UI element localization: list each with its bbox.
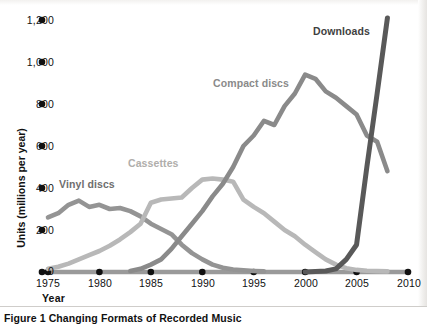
xtick-label-1995: 1995 [232, 277, 276, 289]
figure-caption: Figure 1 Changing Formats of Recorded Mu… [4, 312, 242, 324]
series-label-compact-discs: Compact discs [213, 77, 289, 89]
x-tick-dot-1980 [96, 269, 103, 276]
caption-divider [0, 306, 427, 307]
xtick-label-1990: 1990 [181, 277, 225, 289]
y-axis-title: Units (millions per year) [15, 123, 27, 253]
ytick-label-1200: 1,200 [0, 14, 54, 26]
xtick-label-1975: 1975 [26, 277, 70, 289]
xtick-label-1980: 1980 [78, 277, 122, 289]
ytick-label-600: 600 [0, 140, 54, 152]
x-tick-dot-1990 [199, 269, 206, 276]
series-line-downloads [305, 18, 387, 272]
series-line-compact-discs [130, 75, 387, 271]
ytick-label-1000: 1,000 [0, 56, 54, 68]
series-label-cassettes: Cassettes [128, 157, 179, 169]
x-tick-dot-2010 [405, 269, 412, 276]
xtick-label-2010: 2010 [387, 277, 427, 289]
xtick-label-1985: 1985 [129, 277, 173, 289]
xtick-label-2000: 2000 [284, 277, 328, 289]
series-label-vinyl-discs: Vinyl discs [59, 178, 115, 190]
x-tick-dot-1985 [148, 269, 155, 276]
ytick-label-400: 400 [0, 182, 54, 194]
series-label-downloads: Downloads [313, 25, 370, 37]
ytick-label-0: 0 [0, 265, 54, 277]
ytick-label-200: 200 [0, 224, 54, 236]
x-axis-title: Year [42, 292, 65, 304]
ytick-label-800: 800 [0, 98, 54, 110]
xtick-label-2005: 2005 [335, 277, 379, 289]
